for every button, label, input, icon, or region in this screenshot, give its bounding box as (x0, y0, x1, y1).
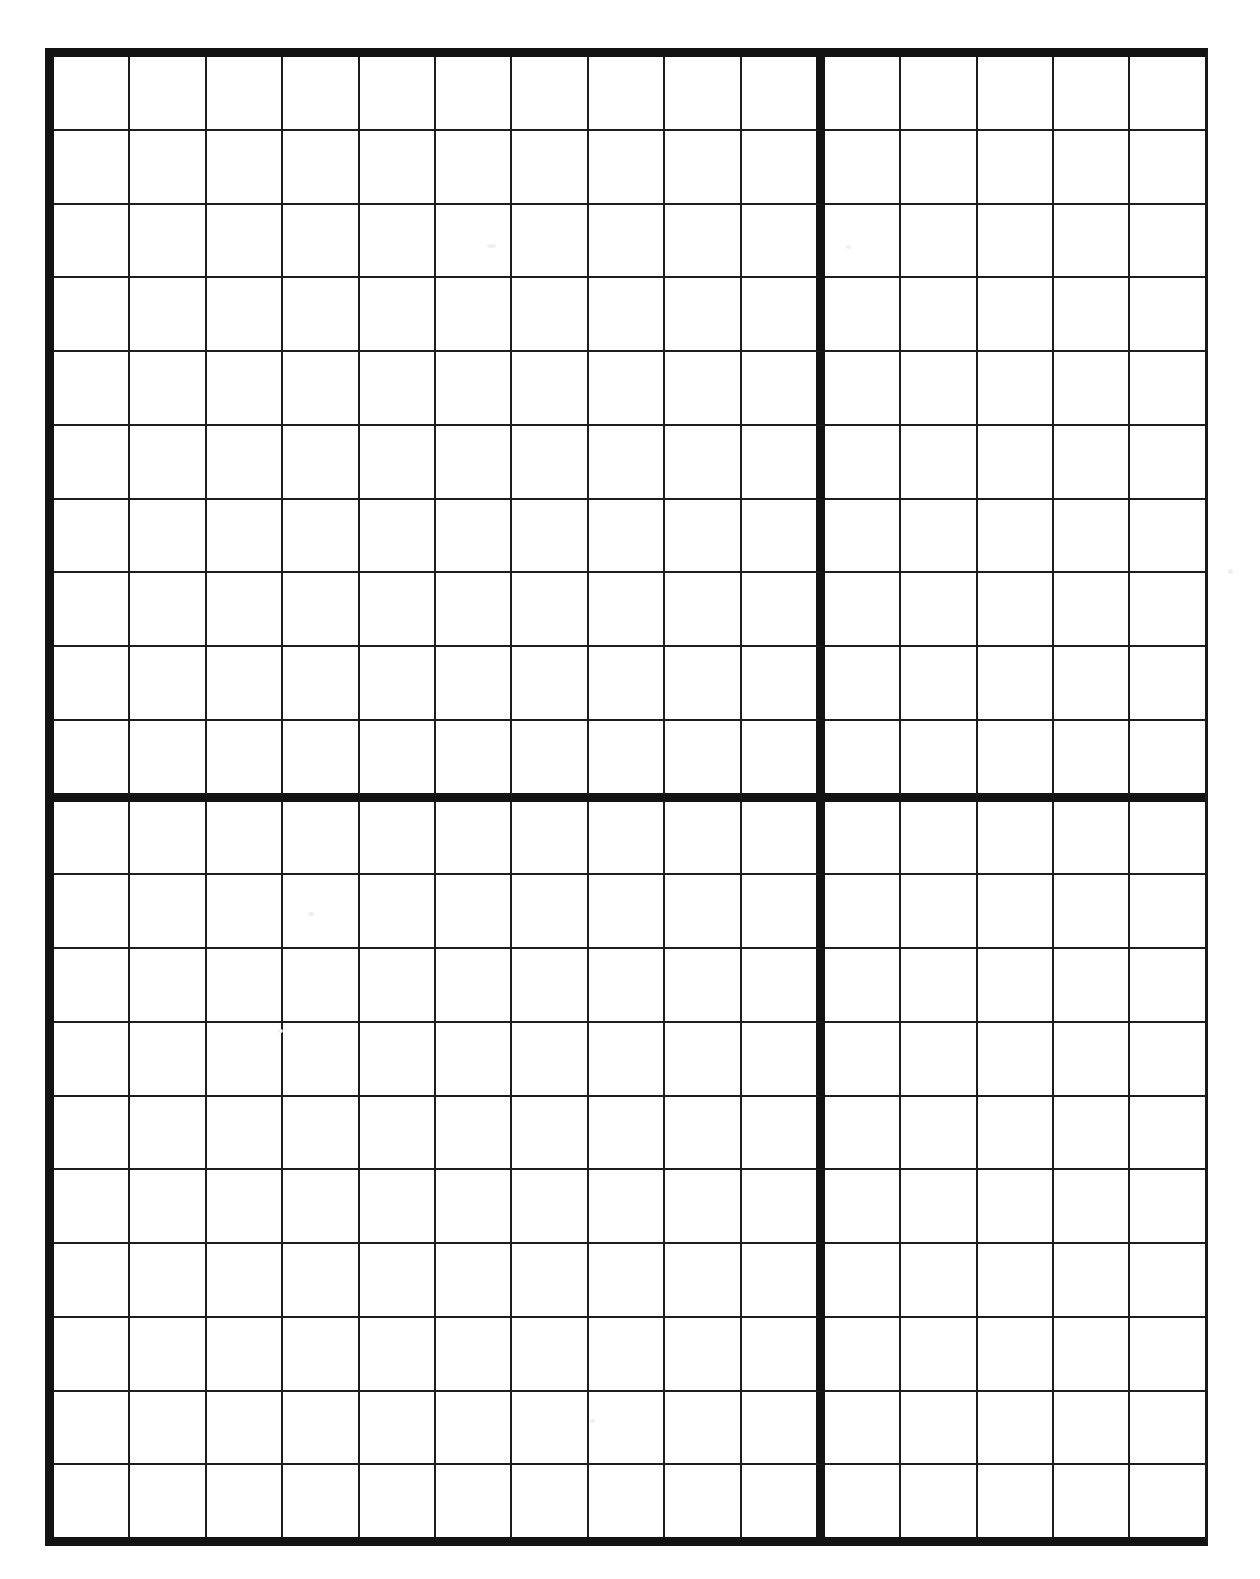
grid-cell[interactable] (207, 1023, 283, 1097)
grid-cell[interactable] (512, 573, 588, 647)
grid-cell[interactable] (978, 1465, 1054, 1537)
grid-cell[interactable] (512, 1392, 588, 1466)
grid-cell[interactable] (54, 500, 130, 574)
grid-cell[interactable] (589, 352, 665, 426)
grid-cell[interactable] (360, 1244, 436, 1318)
grid-cell[interactable] (825, 352, 901, 426)
grid-cell[interactable] (360, 205, 436, 279)
grid-cell[interactable] (665, 1244, 741, 1318)
grid-cell[interactable] (436, 1170, 512, 1244)
grid-cell[interactable] (1054, 949, 1130, 1023)
grid-cell[interactable] (54, 205, 130, 279)
grid-cell[interactable] (825, 426, 901, 500)
grid-cell[interactable] (742, 721, 825, 802)
grid-cell[interactable] (589, 1170, 665, 1244)
grid-cell[interactable] (360, 1097, 436, 1171)
grid-cell[interactable] (130, 1097, 206, 1171)
grid-cell[interactable] (742, 949, 825, 1023)
grid-cell[interactable] (901, 1097, 977, 1171)
grid-cell[interactable] (742, 1392, 825, 1466)
grid-cell[interactable] (130, 352, 206, 426)
grid-cell[interactable] (207, 57, 283, 131)
grid-cell[interactable] (901, 1170, 977, 1244)
grid-cell[interactable] (1130, 1097, 1204, 1171)
grid-cell[interactable] (283, 1465, 359, 1537)
grid-cell[interactable] (512, 721, 588, 802)
grid-cell[interactable] (901, 426, 977, 500)
grid-cell[interactable] (130, 721, 206, 802)
grid-cell[interactable] (1054, 647, 1130, 721)
grid-cell[interactable] (665, 1392, 741, 1466)
grid-cell[interactable] (589, 57, 665, 131)
grid-cell[interactable] (360, 57, 436, 131)
grid-cell[interactable] (130, 802, 206, 876)
grid-cell[interactable] (54, 1244, 130, 1318)
grid-cell[interactable] (589, 573, 665, 647)
grid-cell[interactable] (207, 426, 283, 500)
grid-cell[interactable] (978, 875, 1054, 949)
grid-cell[interactable] (825, 1023, 901, 1097)
grid-cell[interactable] (825, 57, 901, 131)
grid-cell[interactable] (901, 131, 977, 205)
grid-cell[interactable] (1054, 875, 1130, 949)
grid-cell[interactable] (436, 1465, 512, 1537)
grid-cell[interactable] (130, 1170, 206, 1244)
grid-cell[interactable] (978, 949, 1054, 1023)
grid-cell[interactable] (825, 131, 901, 205)
grid-cell[interactable] (436, 647, 512, 721)
grid-cell[interactable] (742, 205, 825, 279)
grid-cell[interactable] (512, 57, 588, 131)
grid-cell[interactable] (360, 1023, 436, 1097)
grid-cell[interactable] (207, 1244, 283, 1318)
grid-cell[interactable] (665, 721, 741, 802)
grid-cell[interactable] (1054, 500, 1130, 574)
grid-cell[interactable] (360, 647, 436, 721)
grid-cell[interactable] (283, 352, 359, 426)
grid-cell[interactable] (130, 1392, 206, 1466)
grid-cell[interactable] (360, 721, 436, 802)
grid-cell[interactable] (207, 647, 283, 721)
grid-cell[interactable] (54, 352, 130, 426)
grid-cell[interactable] (207, 278, 283, 352)
grid-cell[interactable] (360, 1170, 436, 1244)
grid-cell[interactable] (130, 949, 206, 1023)
grid-cell[interactable] (436, 426, 512, 500)
grid-cell[interactable] (207, 131, 283, 205)
grid-cell[interactable] (207, 1170, 283, 1244)
grid-cell[interactable] (978, 573, 1054, 647)
grid-cell[interactable] (825, 802, 901, 876)
grid-cell[interactable] (1130, 1318, 1204, 1392)
grid-cell[interactable] (436, 1392, 512, 1466)
grid-cell[interactable] (1054, 573, 1130, 647)
grid-cell[interactable] (360, 1465, 436, 1537)
grid-cell[interactable] (283, 875, 359, 949)
grid-cell[interactable] (665, 1170, 741, 1244)
grid-cell[interactable] (360, 573, 436, 647)
grid-cell[interactable] (54, 949, 130, 1023)
grid-cell[interactable] (978, 1392, 1054, 1466)
grid-cell[interactable] (207, 875, 283, 949)
grid-cell[interactable] (283, 1097, 359, 1171)
grid-cell[interactable] (283, 802, 359, 876)
grid-cell[interactable] (665, 205, 741, 279)
grid-cell[interactable] (901, 573, 977, 647)
grid-cell[interactable] (1130, 1244, 1204, 1318)
grid-cell[interactable] (512, 205, 588, 279)
grid-cell[interactable] (1130, 278, 1204, 352)
grid-cell[interactable] (978, 426, 1054, 500)
grid-cell[interactable] (901, 278, 977, 352)
grid-cell[interactable] (1130, 875, 1204, 949)
grid-cell[interactable] (1054, 1097, 1130, 1171)
grid-cell[interactable] (283, 1170, 359, 1244)
grid-cell[interactable] (589, 278, 665, 352)
grid-cell[interactable] (283, 1318, 359, 1392)
grid-cell[interactable] (130, 500, 206, 574)
grid-cell[interactable] (1054, 131, 1130, 205)
grid-cell[interactable] (1130, 1465, 1204, 1537)
grid-cell[interactable] (825, 1318, 901, 1392)
grid-cell[interactable] (512, 500, 588, 574)
grid-cell[interactable] (54, 1097, 130, 1171)
grid-cell[interactable] (436, 57, 512, 131)
grid-cell[interactable] (512, 1465, 588, 1537)
grid-cell[interactable] (742, 1318, 825, 1392)
